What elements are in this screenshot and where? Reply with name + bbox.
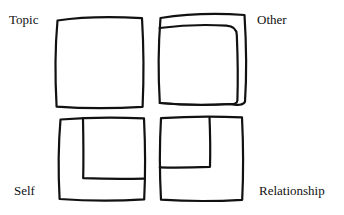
quadrant-label-self: Self: [14, 184, 35, 197]
self-square-inner: [83, 118, 144, 179]
topic-square-outer: [56, 17, 144, 108]
quadrant-label-relationship: Relationship: [259, 184, 325, 197]
other-square-inner: [160, 25, 238, 105]
quadrant-label-other: Other: [257, 13, 287, 26]
quadrant-label-topic: Topic: [9, 13, 38, 26]
diagram-canvas: Topic Other Self Relationship: [0, 0, 344, 215]
relationship-square-inner: [160, 117, 210, 168]
self-square-outer: [59, 118, 145, 201]
relationship-square-outer: [160, 117, 243, 201]
